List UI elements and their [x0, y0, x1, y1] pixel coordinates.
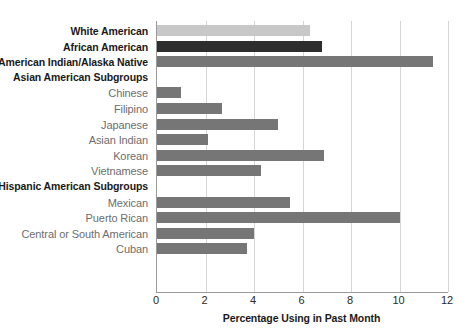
category-label: Mexican — [108, 198, 148, 209]
bar — [157, 119, 278, 130]
category-label-column: White AmericanAfrican AmericanAmerican I… — [0, 0, 154, 294]
category-label: Filipino — [114, 104, 148, 115]
bar — [157, 228, 254, 239]
x-tick-label-10: 10 — [392, 294, 404, 306]
bar — [157, 87, 181, 98]
x-tick-label-2: 2 — [201, 294, 207, 306]
x-axis-ticks: 024681012 — [156, 294, 447, 310]
bar — [157, 56, 433, 67]
x-tick-label-4: 4 — [250, 294, 256, 306]
x-axis-title: Percentage Using in Past Month — [156, 312, 447, 324]
bar — [157, 197, 290, 208]
category-label: Chinese — [108, 88, 148, 99]
category-label: Cuban — [116, 244, 148, 255]
bar — [157, 150, 324, 161]
category-label: Vietnamese — [91, 166, 148, 177]
category-label: American Indian/Alaska Native — [0, 57, 148, 68]
category-label: African American — [63, 42, 148, 53]
bar — [157, 41, 322, 52]
group-header-label: Hispanic American Subgroups — [0, 181, 148, 192]
group-header-label: Asian American Subgroups — [13, 72, 148, 83]
category-label: Korean — [113, 151, 148, 162]
bar — [157, 212, 400, 223]
x-tick-label-6: 6 — [298, 294, 304, 306]
category-label: White American — [70, 26, 148, 37]
bar — [157, 103, 222, 114]
bar — [157, 134, 208, 145]
gridline-12 — [448, 21, 449, 292]
category-label: Asian Indian — [89, 135, 148, 146]
category-label: Puerto Rican — [86, 213, 148, 224]
bar — [157, 243, 247, 254]
category-label: Japanese — [101, 120, 148, 131]
bar-chart: White AmericanAfrican AmericanAmerican I… — [0, 0, 470, 336]
x-tick-label-0: 0 — [153, 294, 159, 306]
bar — [157, 25, 310, 36]
x-tick-label-12: 12 — [441, 294, 453, 306]
bar — [157, 165, 261, 176]
category-label: Central or South American — [21, 229, 148, 240]
x-tick-label-8: 8 — [347, 294, 353, 306]
plot-area — [156, 21, 448, 293]
